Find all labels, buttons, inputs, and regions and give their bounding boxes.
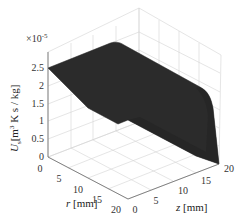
svg-text:20: 20	[224, 163, 234, 174]
svg-text:0.5: 0.5	[32, 133, 45, 144]
u-axis-ticks: 0 0.5 1 1.5 2 2.5	[32, 62, 45, 162]
svg-text:0: 0	[38, 163, 43, 174]
svg-text:2.5: 2.5	[32, 62, 45, 73]
svg-text:20: 20	[111, 204, 121, 215]
surface-plot: 0 0.5 1 1.5 2 2.5 ×10-5 0 5 10 15 20 r […	[0, 0, 246, 221]
svg-text:×10-5: ×10-5	[26, 32, 48, 44]
svg-text:0: 0	[133, 204, 138, 215]
svg-text:5: 5	[154, 195, 159, 206]
z-axis-label: z [mm]	[175, 201, 207, 213]
svg-text:1: 1	[39, 115, 44, 126]
svg-text:1.5: 1.5	[32, 98, 45, 109]
svg-text:2: 2	[39, 80, 44, 91]
u-multiplier: ×10-5	[26, 32, 48, 44]
svg-text:10: 10	[73, 184, 83, 195]
u-axis-label: Us[m3 K s / kg]	[8, 85, 23, 152]
svg-text:r [mm]: r [mm]	[66, 197, 97, 209]
svg-text:Us[m3 K s / kg]: Us[m3 K s / kg]	[8, 85, 23, 152]
svg-text:0: 0	[39, 151, 44, 162]
r-axis-label: r [mm]	[66, 197, 97, 209]
svg-text:5: 5	[57, 173, 62, 184]
svg-text:z [mm]: z [mm]	[175, 201, 207, 213]
svg-text:15: 15	[201, 175, 211, 186]
surface	[48, 42, 219, 164]
svg-text:10: 10	[178, 185, 188, 196]
